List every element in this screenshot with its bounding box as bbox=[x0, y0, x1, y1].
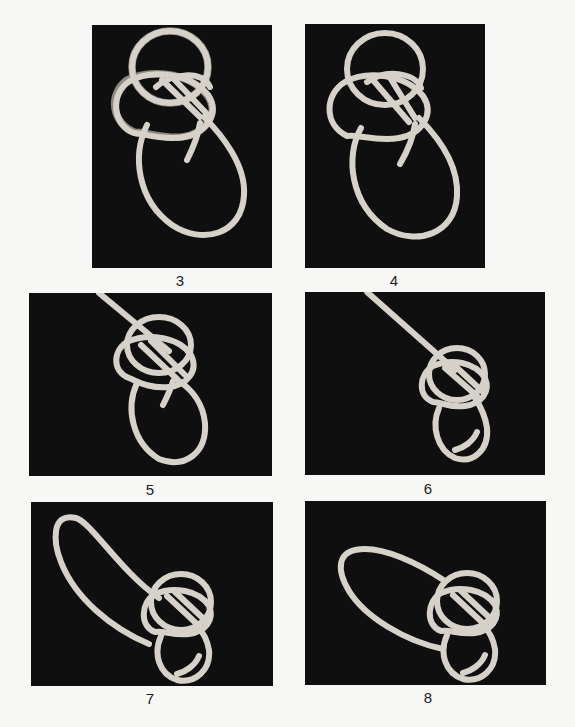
step-6-caption: 6 bbox=[408, 481, 448, 497]
step-5-caption: 5 bbox=[130, 482, 170, 498]
step-3-caption: 3 bbox=[160, 273, 200, 289]
step-4-caption: 4 bbox=[374, 273, 414, 289]
knot-step-8-illustration bbox=[305, 501, 546, 685]
step-4-photo bbox=[305, 24, 485, 268]
knot-step-3-illustration bbox=[92, 25, 272, 268]
knot-step-7-illustration bbox=[31, 502, 273, 686]
step-5-photo bbox=[29, 293, 272, 476]
step-8-caption: 8 bbox=[408, 690, 448, 706]
step-8-photo bbox=[305, 501, 546, 685]
knot-step-5-illustration bbox=[29, 293, 272, 476]
step-7-photo bbox=[31, 502, 273, 686]
step-3-photo bbox=[92, 25, 272, 268]
step-6-photo bbox=[305, 292, 545, 475]
knot-step-4-illustration bbox=[305, 24, 485, 268]
knot-step-6-illustration bbox=[305, 292, 545, 475]
step-7-caption: 7 bbox=[130, 691, 170, 707]
